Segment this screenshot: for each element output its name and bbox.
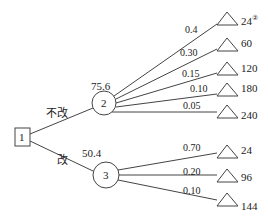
chance-node-2-label: 2 [101,98,107,109]
payoff-label: 24② [241,16,258,27]
payoff-label: 180 [241,83,258,94]
payoff-label: 120 [241,63,258,74]
probability-label: 0.20 [183,167,201,177]
terminal-triangle [217,38,238,51]
probability-label: 0.05 [183,101,201,111]
terminal-triangle [217,169,238,182]
decision-tree-lines [0,0,268,224]
probability-label: 0.15 [182,69,200,79]
probability-label: 0.70 [183,143,201,153]
decision-node-label: 1 [19,132,25,143]
payoff-label: 24 [241,145,252,156]
terminal-triangle [217,145,238,158]
payoff-label: 144 [241,201,258,212]
probability-label: 0.10 [183,186,201,196]
probability-label: 0.4 [185,25,198,35]
probability-label: 0.30 [180,48,198,58]
chance-node-3-label: 3 [103,170,109,181]
branch-label-no-change: 不改 [46,108,68,119]
payoff-label: 96 [241,172,252,183]
terminal-triangle [217,12,238,25]
expected-value-2: 75.6 [91,81,110,92]
branch-label-change: 改 [57,155,68,166]
terminal-triangle [217,105,238,118]
probability-label: 0.10 [190,84,208,94]
expected-value-3: 50.4 [82,148,101,159]
terminal-triangle [217,193,238,206]
terminal-triangle [217,62,238,75]
footnote-marker: ② [252,14,258,22]
payoff-label: 60 [241,38,252,49]
payoff-label: 240 [241,110,258,121]
terminal-triangle [217,83,238,96]
